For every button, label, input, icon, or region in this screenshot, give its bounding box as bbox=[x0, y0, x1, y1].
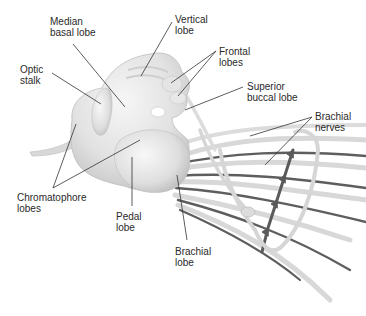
label-superior-buccal-lobe: Superior buccal lobe bbox=[247, 81, 298, 103]
label-brachial-nerves-line2: nerves bbox=[315, 122, 351, 133]
label-optic-stalk-line1: Optic bbox=[20, 64, 43, 75]
label-frontal-lobes-line1: Frontal bbox=[219, 46, 250, 57]
label-pedal-lobe-line2: lobe bbox=[116, 222, 142, 233]
label-superior-buccal-lobe-line2: buccal lobe bbox=[247, 92, 298, 103]
label-vertical-lobe-line1: Vertical bbox=[175, 14, 208, 25]
label-median-basal-lobe-line1: Median bbox=[50, 16, 96, 27]
label-frontal-lobes-line2: lobes bbox=[219, 57, 250, 68]
label-pedal-lobe: Pedal lobe bbox=[116, 211, 142, 233]
label-brachial-lobe: Brachial lobe bbox=[175, 246, 211, 268]
label-median-basal-lobe-line2: basal lobe bbox=[50, 27, 96, 38]
octopus-brain-diagram bbox=[0, 0, 366, 316]
label-vertical-lobe-line2: lobe bbox=[175, 25, 208, 36]
label-chromatophore-lobes-line2: lobes bbox=[17, 203, 86, 214]
label-optic-stalk: Optic stalk bbox=[20, 64, 43, 86]
label-vertical-lobe: Vertical lobe bbox=[175, 14, 208, 36]
label-brachial-lobe-line1: Brachial bbox=[175, 246, 211, 257]
label-pedal-lobe-line1: Pedal bbox=[116, 211, 142, 222]
label-optic-stalk-line2: stalk bbox=[20, 75, 43, 86]
label-brachial-nerves-line1: Brachial bbox=[315, 111, 351, 122]
label-frontal-lobes: Frontal lobes bbox=[219, 46, 250, 68]
label-chromatophore-lobes: Chromatophore lobes bbox=[17, 192, 86, 214]
label-brachial-nerves: Brachial nerves bbox=[315, 111, 351, 133]
label-superior-buccal-lobe-line1: Superior bbox=[247, 81, 298, 92]
label-brachial-lobe-line2: lobe bbox=[175, 257, 211, 268]
label-chromatophore-lobes-line1: Chromatophore bbox=[17, 192, 86, 203]
label-median-basal-lobe: Median basal lobe bbox=[50, 16, 96, 38]
